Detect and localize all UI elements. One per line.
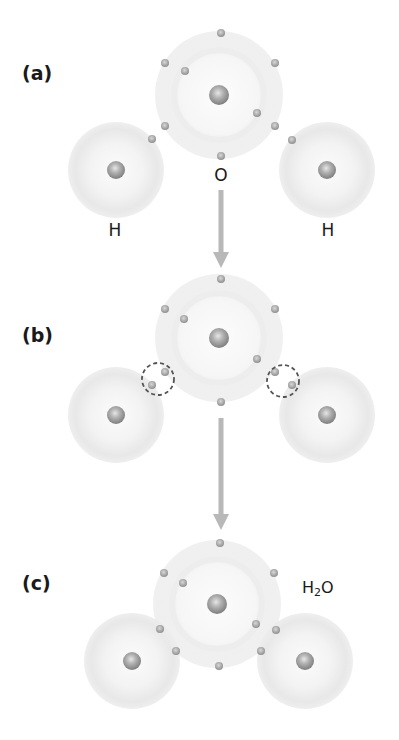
electron: [180, 315, 188, 323]
oxygen-atom: [155, 31, 283, 159]
electron: [217, 29, 225, 37]
electron: [288, 381, 296, 389]
electron: [179, 579, 187, 587]
electron: [161, 59, 169, 67]
water-formula: H2O: [302, 578, 334, 599]
electron: [156, 625, 164, 633]
electron: [253, 355, 261, 363]
panel-label-c: (c): [22, 572, 51, 594]
hydrogen-left-label: H: [109, 220, 122, 240]
electron: [216, 539, 224, 547]
down-arrow-icon: [213, 190, 229, 268]
electron: [172, 647, 180, 655]
water-molecule-diagram: (a) (b) (c) O H H H2O: [0, 0, 399, 740]
electron: [271, 122, 279, 130]
electron: [148, 381, 156, 389]
electron: [160, 569, 168, 577]
atoms-layer: [68, 29, 375, 709]
electron: [217, 398, 225, 406]
diagram-canvas: [0, 0, 399, 740]
nucleus: [296, 652, 314, 670]
panel-label-a: (a): [22, 62, 52, 84]
panel-a: [68, 29, 375, 218]
electron: [161, 122, 169, 130]
nucleus: [209, 85, 229, 105]
nucleus: [123, 652, 141, 670]
panel-c: [84, 539, 353, 709]
formula-h: H: [302, 578, 314, 597]
nucleus: [318, 161, 336, 179]
electron: [148, 135, 156, 143]
electron: [272, 626, 280, 634]
electron: [252, 620, 260, 628]
nucleus: [209, 328, 229, 348]
electron: [253, 109, 261, 117]
electron: [271, 59, 279, 67]
electron: [217, 275, 225, 283]
electron: [217, 152, 225, 160]
electron: [161, 368, 169, 376]
formula-o: O: [321, 578, 334, 597]
nucleus: [107, 161, 125, 179]
electron: [215, 662, 223, 670]
panel-label-b: (b): [22, 324, 53, 346]
hydrogen-atom: [68, 367, 164, 463]
electron: [288, 136, 296, 144]
nucleus: [318, 406, 336, 424]
electron: [181, 67, 189, 75]
electron: [271, 305, 279, 313]
formula-subscript: 2: [314, 586, 321, 599]
nucleus: [107, 406, 125, 424]
nucleus: [207, 594, 227, 614]
electron: [257, 647, 265, 655]
down-arrow-icon: [213, 418, 229, 530]
oxygen-label: O: [214, 165, 227, 185]
electron: [161, 305, 169, 313]
electron: [270, 569, 278, 577]
hydrogen-right-label: H: [322, 220, 335, 240]
